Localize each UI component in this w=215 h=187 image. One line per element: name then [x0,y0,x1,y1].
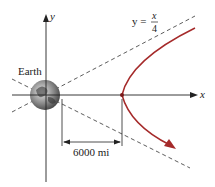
vertex-point [120,93,124,97]
distance-label: 6000 mi [73,147,109,158]
asymptote-lhs: y = [132,16,146,27]
hyperbola-diagram: y x Earth y = x 4 6000 mi [0,0,215,187]
trajectory-arrow-icon [164,139,176,149]
asymptote-numerator: x [152,11,156,21]
diagram-canvas [0,0,215,187]
y-axis-arrow-icon [43,14,49,22]
y-axis-label: y [50,11,55,22]
x-axis-arrow-icon [190,92,198,98]
trajectory-curve [122,28,195,145]
earth-label: Earth [18,66,42,77]
x-axis-label: x [200,89,205,100]
asymptote-denominator: 4 [152,24,157,34]
